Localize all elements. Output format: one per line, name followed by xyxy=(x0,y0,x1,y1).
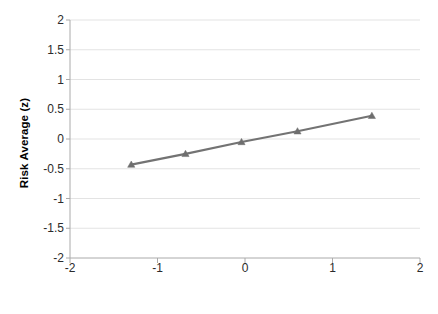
series-line xyxy=(131,116,372,165)
y-axis-ticks xyxy=(66,20,70,258)
data-series xyxy=(128,112,376,167)
x-axis-ticks xyxy=(70,258,420,263)
gridlines xyxy=(70,20,420,228)
chart-figure: Risk Average (z) 2 1.5 1 0.5 0 -0.5 -1 -… xyxy=(0,0,438,314)
plot-area xyxy=(0,0,438,314)
